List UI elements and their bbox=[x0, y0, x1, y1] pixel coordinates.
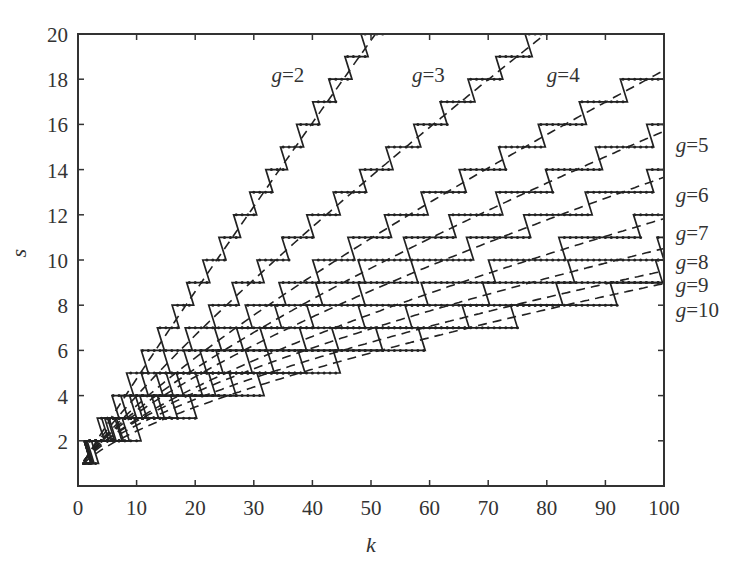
data-point bbox=[375, 304, 378, 307]
data-point bbox=[416, 146, 419, 149]
data-point bbox=[487, 168, 490, 171]
data-point bbox=[422, 304, 425, 307]
data-point bbox=[534, 191, 537, 194]
data-point bbox=[129, 417, 132, 420]
data-point bbox=[352, 281, 355, 284]
data-point bbox=[598, 259, 601, 262]
data-point bbox=[446, 123, 449, 126]
data-point bbox=[200, 394, 203, 397]
data-point bbox=[329, 349, 332, 352]
data-point bbox=[153, 417, 156, 420]
data-point bbox=[153, 349, 156, 352]
y-tick-label: 14 bbox=[47, 159, 69, 183]
data-point bbox=[358, 236, 361, 239]
data-point bbox=[498, 213, 501, 216]
data-point bbox=[176, 394, 179, 397]
data-point bbox=[539, 304, 542, 307]
data-point bbox=[645, 259, 648, 262]
data-point bbox=[440, 123, 443, 126]
data-point bbox=[616, 191, 619, 194]
data-point bbox=[446, 326, 449, 329]
data-point bbox=[493, 236, 496, 239]
data-point bbox=[575, 236, 578, 239]
data-point bbox=[282, 349, 285, 352]
data-point bbox=[586, 191, 589, 194]
data-point bbox=[528, 304, 531, 307]
data-point bbox=[592, 281, 595, 284]
data-point bbox=[522, 146, 525, 149]
data-point bbox=[147, 372, 150, 375]
data-point bbox=[159, 349, 162, 352]
data-point bbox=[598, 304, 601, 307]
data-point bbox=[639, 191, 642, 194]
data-point bbox=[293, 304, 296, 307]
data-point bbox=[135, 439, 138, 442]
data-point bbox=[387, 168, 390, 171]
data-point bbox=[604, 281, 607, 284]
data-point bbox=[616, 259, 619, 262]
data-point bbox=[352, 259, 355, 262]
data-point bbox=[504, 168, 507, 171]
data-point bbox=[258, 372, 261, 375]
data-point bbox=[305, 281, 308, 284]
data-point bbox=[416, 304, 419, 307]
data-point bbox=[452, 304, 455, 307]
data-point bbox=[422, 349, 425, 352]
data-point bbox=[223, 236, 226, 239]
data-point bbox=[487, 281, 490, 284]
data-point bbox=[639, 146, 642, 149]
data-point bbox=[575, 259, 578, 262]
data-point bbox=[246, 349, 249, 352]
data-point bbox=[487, 326, 490, 329]
data-point bbox=[370, 236, 373, 239]
data-point bbox=[334, 304, 337, 307]
data-point bbox=[411, 146, 414, 149]
data-point bbox=[106, 439, 109, 442]
data-point bbox=[539, 146, 542, 149]
staircase-g=4 bbox=[84, 79, 664, 463]
data-point bbox=[399, 146, 402, 149]
data-point bbox=[598, 168, 601, 171]
data-point bbox=[282, 259, 285, 262]
data-point bbox=[293, 326, 296, 329]
data-point bbox=[229, 394, 232, 397]
data-point bbox=[645, 281, 648, 284]
data-point bbox=[469, 281, 472, 284]
chart: g=2g=3g=4g=5g=6g=7g=8g=9g=10 01020304050… bbox=[0, 0, 745, 574]
data-point bbox=[581, 259, 584, 262]
data-point bbox=[633, 78, 636, 81]
data-point bbox=[446, 259, 449, 262]
data-point bbox=[516, 236, 519, 239]
data-point bbox=[575, 281, 578, 284]
data-point bbox=[358, 259, 361, 262]
data-point bbox=[510, 146, 513, 149]
data-point bbox=[364, 236, 367, 239]
data-point bbox=[475, 281, 478, 284]
data-point bbox=[522, 259, 525, 262]
data-point bbox=[282, 281, 285, 284]
data-point bbox=[159, 372, 162, 375]
data-point bbox=[352, 304, 355, 307]
data-point bbox=[235, 372, 238, 375]
x-tick-label: 70 bbox=[478, 496, 499, 520]
data-point bbox=[311, 281, 314, 284]
data-point bbox=[387, 236, 390, 239]
data-point bbox=[393, 213, 396, 216]
data-point bbox=[387, 326, 390, 329]
data-point bbox=[598, 100, 601, 103]
data-point bbox=[457, 100, 460, 103]
data-point bbox=[364, 349, 367, 352]
y-tick-label: 18 bbox=[47, 68, 68, 92]
data-point bbox=[598, 281, 601, 284]
data-point bbox=[487, 236, 490, 239]
data-point bbox=[481, 78, 484, 81]
data-point bbox=[129, 394, 132, 397]
data-point bbox=[463, 168, 466, 171]
data-point bbox=[217, 349, 220, 352]
data-point bbox=[469, 304, 472, 307]
data-point bbox=[288, 304, 291, 307]
data-point bbox=[563, 281, 566, 284]
series-label-g=5: g=5 bbox=[676, 133, 709, 157]
data-point bbox=[645, 213, 648, 216]
data-point bbox=[498, 191, 501, 194]
